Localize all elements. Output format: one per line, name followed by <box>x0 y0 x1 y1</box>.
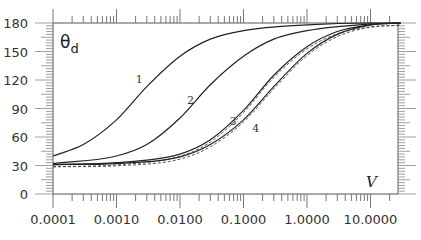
x-tick-label: 0.0010 <box>94 212 140 227</box>
curve-4-dashed <box>53 25 401 167</box>
y-tick-label: 120 <box>3 73 28 88</box>
y-tick-label: 30 <box>11 159 28 174</box>
y-axis-ticks <box>35 23 416 194</box>
x-tick-label: 0.0001 <box>30 212 76 227</box>
y-tick-label: 0 <box>20 187 28 202</box>
curve-label-2: 2 <box>187 94 194 107</box>
y-tick-label: 180 <box>3 16 28 31</box>
y-tick-label: 150 <box>3 45 28 60</box>
y-axis-title-subscript: d <box>70 41 78 56</box>
x-axis-tick-labels: 0.00010.00100.01000.10001.000010.0000 <box>30 212 397 227</box>
plot-frame <box>53 23 398 194</box>
curves <box>53 23 401 167</box>
curve-3-dashed <box>53 25 401 167</box>
x-tick-label: 0.1000 <box>221 212 267 227</box>
curve-3 <box>53 23 401 165</box>
x-tick-label: 1.0000 <box>284 212 330 227</box>
x-tick-label: 10.0000 <box>344 212 398 227</box>
x-axis-title: V <box>366 173 379 191</box>
y-axis-title: θd <box>60 32 79 56</box>
curve-4 <box>53 23 401 165</box>
x-tick-label: 0.0100 <box>157 212 203 227</box>
y-axis-title-symbol: θ <box>60 32 70 52</box>
y-tick-label: 90 <box>11 102 28 117</box>
y-tick-label: 60 <box>11 130 28 145</box>
curve-labels: 1234 <box>136 73 259 135</box>
x-axis-ticks <box>53 9 390 208</box>
y-axis-tick-labels: 0306090120150180 <box>3 16 28 202</box>
curve-2 <box>53 23 401 164</box>
line-chart: 0.00010.00100.01000.10001.000010.0000 03… <box>0 0 421 240</box>
curve-label-4: 4 <box>252 122 259 135</box>
curve-label-3: 3 <box>230 115 237 128</box>
curve-label-1: 1 <box>136 73 143 86</box>
